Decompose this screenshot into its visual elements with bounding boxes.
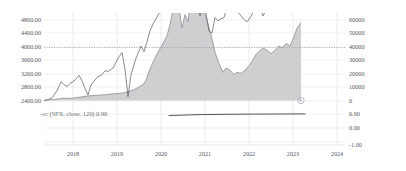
left-tick-4400: 4400.00 [21,29,41,36]
right-tick-0-00: 0.00 [349,124,360,131]
left-tick-4000: 4000.00 [21,43,41,50]
left-tick-2800: 2800.00 [21,83,41,90]
left-tick-3200: 3200.00 [21,70,41,77]
right-tick-50000: 50000 [349,29,364,36]
x-tick-2020: 2020 [155,150,167,157]
x-tick-2024: 2024 [331,150,343,157]
right-tick-neg-1: -1.00 [349,141,362,148]
x-tick-2021: 2021 [199,150,211,157]
right-tick-20000: 20000 [349,70,364,77]
left-tick-4800: 4800.00 [21,16,41,23]
correlation-annotation-label: -cc (SPX, close, 120) 0.90 [40,110,107,118]
x-tick-2023: 2023 [287,150,299,157]
x-tick-2018: 2018 [67,150,79,157]
chart-container: 4800.00 4400.00 4000.00 3600.00 3200.00 … [0,0,406,171]
left-axis-ticklabels: 4800.00 4400.00 4000.00 3600.00 3200.00 … [21,16,41,104]
end-value-marker-dot [300,99,302,101]
right-tick-0: 0 [349,97,352,104]
right-tick-30000: 30000 [349,56,364,63]
left-tick-2400: 2400.00 [21,97,41,104]
x-tick-2019: 2019 [111,150,123,157]
right-axis-ticklabels-correlation: 0.90 0.00 -1.00 [349,110,362,148]
x-tick-2022: 2022 [243,150,255,157]
right-tick-60000: 60000 [349,16,364,23]
right-tick-10000: 10000 [349,83,364,90]
chart-canvas: 4800.00 4400.00 4000.00 3600.00 3200.00 … [0,0,406,171]
right-axis-ticklabels-volume: 60000 50000 40000 30000 20000 10000 0 [349,16,364,104]
x-axis-ticklabels: 2018 2019 2020 2021 2022 2023 2024 [67,150,343,157]
left-tick-3600: 3600.00 [21,56,41,63]
right-tick-40000: 40000 [349,43,364,50]
right-tick-0-90: 0.90 [349,110,360,117]
